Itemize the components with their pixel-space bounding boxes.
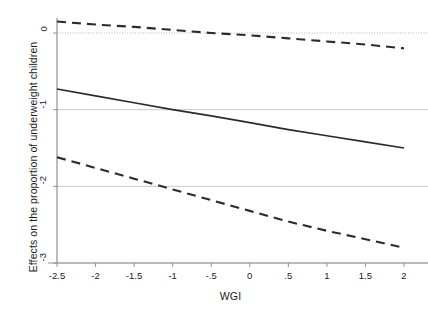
tick-marks-group bbox=[53, 33, 404, 267]
gridlines-group bbox=[57, 110, 428, 263]
data-series-group bbox=[57, 22, 404, 248]
y-tick-label: -3 bbox=[36, 253, 47, 261]
x-tick-label: 1 bbox=[324, 270, 329, 281]
y-tick-label: 0 bbox=[38, 26, 49, 31]
x-tick-label: -1.5 bbox=[126, 270, 142, 281]
axes-group bbox=[48, 18, 428, 263]
y-tick-label: -2 bbox=[36, 176, 47, 184]
x-axis-title: WGI bbox=[57, 290, 404, 302]
x-tick-label: .5 bbox=[284, 270, 292, 281]
x-tick-label: 0 bbox=[247, 270, 252, 281]
x-tick-label: -1 bbox=[168, 270, 176, 281]
chart-figure: 0-1-2-3 -2.5-2-1.5-1-.50.511.52 Effects … bbox=[0, 0, 428, 314]
series-line-2 bbox=[57, 157, 404, 247]
x-tick-label: -2.5 bbox=[49, 270, 65, 281]
y-tick-label: -1 bbox=[36, 100, 47, 108]
series-line-1 bbox=[57, 89, 404, 148]
x-tick-label: 1.5 bbox=[359, 270, 372, 281]
chart-plot-area bbox=[0, 0, 428, 314]
x-tick-label: -2 bbox=[91, 270, 99, 281]
series-line-0 bbox=[57, 22, 404, 49]
x-tick-label: -.5 bbox=[206, 270, 217, 281]
x-tick-label: 2 bbox=[401, 270, 406, 281]
